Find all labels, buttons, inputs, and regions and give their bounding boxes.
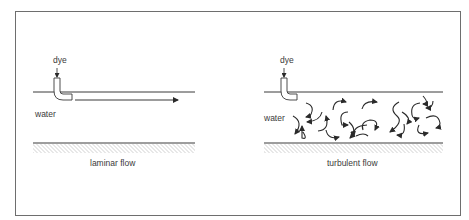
laminar-water-label: water: [35, 109, 56, 119]
channel-bed-hatch: [264, 144, 443, 153]
channel-bed-hatch: [33, 144, 195, 153]
laminar-panel: [33, 68, 195, 153]
flow-diagram: [0, 0, 469, 220]
turbulent-caption: turbulent flow: [327, 158, 378, 168]
turbulent-panel: [264, 68, 443, 153]
turbulent-dye-label: dye: [280, 55, 294, 65]
laminar-dye-label: dye: [53, 55, 67, 65]
turbulent-eddies: [293, 96, 440, 138]
dye-nozzle: [281, 78, 297, 100]
laminar-caption: laminar flow: [90, 158, 135, 168]
turbulent-water-label: water: [264, 113, 285, 123]
dye-nozzle: [54, 78, 72, 100]
